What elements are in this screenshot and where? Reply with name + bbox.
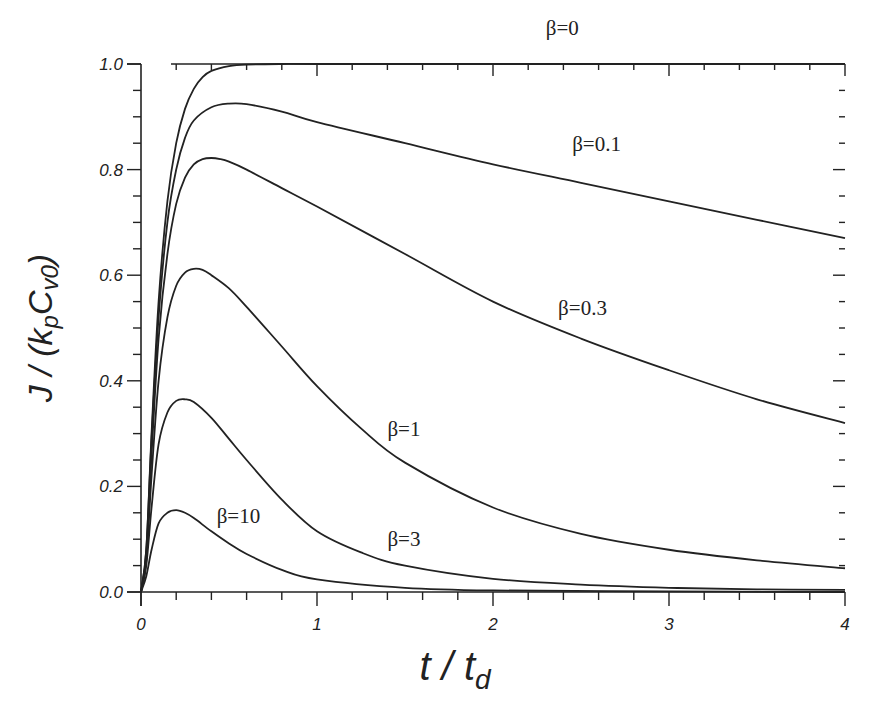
- y-axis-title-sub-p: p: [36, 315, 63, 329]
- curve-label-beta-1: β=1: [387, 417, 420, 441]
- x-axis-title-main: t / t: [419, 644, 476, 688]
- x-tick-label: 0: [136, 615, 146, 634]
- y-axis-title-part-1: J / (k: [21, 326, 59, 403]
- x-axis-title: t / td: [419, 644, 492, 695]
- y-tick-label: 0.4: [99, 372, 123, 391]
- y-tick-label: 0.0: [99, 583, 123, 602]
- y-tick-label: 0.8: [99, 161, 123, 180]
- x-tick-label: 3: [664, 615, 674, 634]
- curve-beta-1: [141, 269, 845, 592]
- curve-label-beta-0: β=0: [546, 16, 579, 40]
- curve-label-beta-10: β=10: [217, 504, 261, 528]
- x-tick-label: 4: [840, 615, 849, 634]
- x-tick-label: 2: [487, 615, 498, 634]
- x-axis-title-subscript: d: [475, 664, 492, 695]
- x-tick-label: 1: [312, 615, 321, 634]
- curve-label-beta-0-3: β=0.3: [558, 296, 607, 320]
- chart: 012340.00.20.40.60.81.0 β=0β=0.1β=0.3β=1…: [0, 0, 895, 722]
- y-tick-label: 1.0: [99, 55, 123, 74]
- y-tick-label: 0.2: [99, 477, 123, 496]
- y-tick-label: 0.6: [99, 266, 123, 285]
- y-axis-title-sub-v0: v0: [36, 265, 63, 291]
- y-axis-title: J / (kpCv0): [21, 254, 63, 403]
- curve-label-beta-0-1: β=0.1: [572, 132, 621, 156]
- tick-labels: 012340.00.20.40.60.81.0: [99, 55, 849, 634]
- curve-beta-3: [141, 399, 845, 592]
- curve-label-beta-3: β=3: [387, 527, 420, 551]
- y-axis-title-part-c: C: [21, 290, 59, 315]
